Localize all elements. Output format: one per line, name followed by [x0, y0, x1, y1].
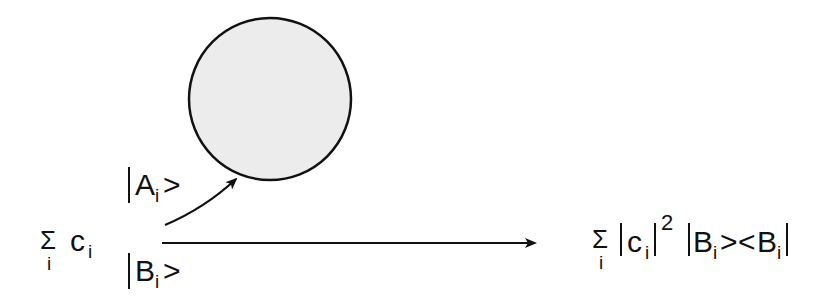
sigma-subscript: i [47, 254, 51, 273]
ket-b-letter: B [135, 256, 155, 286]
right-sigma-symbol: Σ [592, 226, 608, 252]
ket-a-subscript: i [155, 186, 159, 205]
sigma-symbol: Σ [40, 227, 56, 253]
outer-bra-open: < [738, 227, 756, 257]
outer-ket-subscript: i [713, 243, 717, 262]
ket-b-close: > [163, 256, 181, 286]
ket-a-bar [128, 167, 130, 203]
power-exponent: 2 [661, 212, 673, 234]
bra-bar [786, 223, 788, 256]
ket-a-close: > [163, 170, 181, 200]
outer-bra-subscript: i [777, 243, 781, 262]
right-coefficient-subscript: i [645, 243, 649, 262]
ket-bar [688, 223, 690, 256]
ket-b-subscript: i [155, 272, 159, 291]
abs-bar-left [620, 223, 622, 256]
environment-circle [189, 18, 351, 180]
ket-b-bar [128, 253, 130, 289]
right-coefficient: c [627, 227, 642, 257]
diagram-canvas [0, 0, 837, 306]
coefficient-subscript: i [88, 242, 92, 261]
outer-ket-close: > [720, 227, 738, 257]
ket-a-letter: A [135, 170, 155, 200]
right-sigma-subscript: i [599, 253, 603, 272]
outer-bra-letter: B [757, 227, 777, 257]
coefficient: c [70, 226, 85, 256]
outer-ket-letter: B [693, 227, 713, 257]
abs-bar-right [654, 223, 656, 256]
